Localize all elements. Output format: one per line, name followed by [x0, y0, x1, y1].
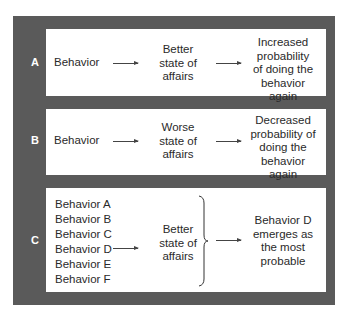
text-line: doing the	[246, 141, 320, 155]
row-c-label: C	[31, 234, 39, 246]
text-line: of doing the	[246, 63, 320, 77]
behavior-item: Behavior C	[55, 227, 112, 242]
text-line: Increased	[246, 36, 320, 50]
text-line: probability of	[246, 128, 320, 142]
text-line: behavior again	[246, 77, 320, 104]
behavior-item: Behavior E	[55, 257, 112, 272]
text-line: Behavior D	[248, 214, 318, 228]
arrow-icon	[216, 240, 241, 241]
text-line: Worse	[148, 121, 208, 135]
behavior-item: Behavior F	[55, 272, 112, 287]
text-line: emerges as	[248, 228, 318, 242]
text-line: Decreased	[246, 114, 320, 128]
row-a-behavior: Behavior	[54, 56, 99, 70]
row-b-result: Decreased probability of doing the behav…	[246, 114, 320, 182]
behavior-item: Behavior B	[55, 212, 112, 227]
text-line: affairs	[148, 70, 208, 84]
arrow-icon	[113, 63, 138, 64]
row-b-consequence: Worse state of affairs	[148, 121, 208, 162]
row-a-consequence: Better state of affairs	[148, 43, 208, 84]
row-b-behavior: Behavior	[54, 134, 99, 148]
behavior-item: Behavior D	[55, 242, 112, 257]
arrow-icon	[113, 248, 138, 249]
row-a-label: A	[31, 56, 39, 68]
row-c-behaviors: Behavior A Behavior B Behavior C Behavio…	[55, 197, 112, 287]
row-c-result: Behavior D emerges as the most probable	[248, 214, 318, 268]
row-b-label: B	[31, 134, 39, 146]
text-line: probability	[246, 50, 320, 64]
arrow-icon	[216, 141, 241, 142]
text-line: probable	[248, 255, 318, 269]
arrow-icon	[113, 141, 138, 142]
curly-brace-icon	[196, 195, 212, 287]
text-line: Better	[148, 43, 208, 57]
text-line: the most	[248, 241, 318, 255]
text-line: behavior again	[246, 155, 320, 182]
arrow-icon	[216, 63, 241, 64]
behavior-item: Behavior A	[55, 197, 112, 212]
row-a-result: Increased probability of doing the behav…	[246, 36, 320, 104]
text-line: state of	[148, 57, 208, 71]
text-line: state of	[148, 135, 208, 149]
text-line: affairs	[148, 148, 208, 162]
